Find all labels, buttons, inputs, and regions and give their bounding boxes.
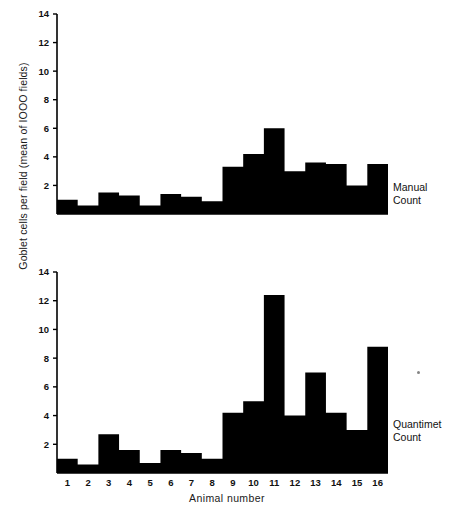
y-tick-label: 8 <box>44 353 49 364</box>
y-tick-label: 14 <box>38 266 49 277</box>
x-tick-label: 13 <box>310 477 321 488</box>
y-tick-label: 2 <box>44 439 49 450</box>
series-annotation-quantimet: Quantimet Count <box>393 418 441 443</box>
bar-series-silhouette <box>57 128 388 214</box>
y-tick-label: 6 <box>44 381 49 392</box>
x-axis-title: Animal number <box>0 492 454 504</box>
y-tick-label: 8 <box>44 94 49 105</box>
y-tick-label: 12 <box>38 37 49 48</box>
series-annotation-manual-line2: Count <box>393 194 427 207</box>
x-tick-label: 14 <box>331 477 342 488</box>
x-tick-label: 8 <box>210 477 215 488</box>
y-tick-label: 4 <box>44 151 50 162</box>
x-tick-label: 9 <box>230 477 235 488</box>
quantimet-count-plot: 246810121412345678910111213141516 <box>0 259 454 521</box>
x-tick-label: 3 <box>106 477 111 488</box>
y-tick-label: 14 <box>38 8 49 19</box>
y-tick-label: 10 <box>38 66 49 77</box>
y-tick-label: 2 <box>44 180 49 191</box>
chart-panel-manual-count: 2468101214 <box>0 0 454 252</box>
x-tick-label: 15 <box>352 477 363 488</box>
x-tick-label: 2 <box>85 477 90 488</box>
x-tick-label: 4 <box>127 477 133 488</box>
y-tick-label: 6 <box>44 123 49 134</box>
x-tick-label: 10 <box>248 477 259 488</box>
x-tick-label: 7 <box>189 477 194 488</box>
x-tick-label: 6 <box>168 477 173 488</box>
manual-count-plot: 2468101214 <box>0 0 454 252</box>
scan-artifact-speck <box>417 371 420 374</box>
bar-series-silhouette <box>57 295 388 473</box>
y-tick-label: 12 <box>38 295 49 306</box>
series-annotation-quantimet-line2: Count <box>393 431 441 444</box>
series-annotation-manual: Manual Count <box>393 181 427 206</box>
x-tick-label: 1 <box>65 477 71 488</box>
series-annotation-quantimet-line1: Quantimet <box>393 418 441 431</box>
chart-panel-quantimet-count: 246810121412345678910111213141516 <box>0 259 454 521</box>
x-tick-label: 12 <box>290 477 301 488</box>
series-annotation-manual-line1: Manual <box>393 181 427 194</box>
x-tick-label: 16 <box>372 477 383 488</box>
figure-container: Goblet cells per field (mean of IOOO fie… <box>0 0 454 521</box>
x-tick-label: 5 <box>147 477 153 488</box>
y-tick-label: 10 <box>38 324 49 335</box>
x-tick-label: 11 <box>269 477 280 488</box>
y-tick-label: 4 <box>44 410 50 421</box>
